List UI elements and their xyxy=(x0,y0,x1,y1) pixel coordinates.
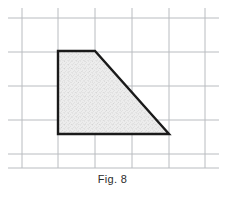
trapezoid-fill-overlay xyxy=(58,51,169,134)
trapezoid-shape-layer xyxy=(0,0,225,199)
figure-container: Fig. 8 xyxy=(0,0,225,199)
